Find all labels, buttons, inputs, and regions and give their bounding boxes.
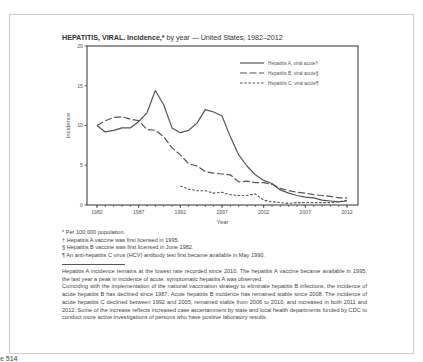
y-tick-label: 20 [77,43,83,49]
summary-paragraph-hep-b-c: Coinciding with the implementation of th… [62,283,367,322]
series-line-hepatitis-b [97,117,347,198]
footnote-per-population: * Per 100,000 population. [62,229,265,237]
summary-divider [62,264,125,265]
legend-label: Hepatitis C, viral acute¶ [268,81,319,86]
x-axis-title: Year [216,219,228,225]
series-line-hepatitis-a [97,91,347,202]
x-tick-label: 2002 [258,209,270,215]
y-tick-label: 0 [80,202,83,208]
footnote-hep-a-vaccine: † Hepatitis A vaccine was first licensed… [62,237,265,245]
page-number-fragment: e 514 [0,355,18,362]
x-tick-label: 1982 [91,209,103,215]
y-axis-title: Incidence [65,112,71,138]
y-tick-label: 15 [77,83,83,89]
x-tick-label: 1992 [175,209,187,215]
legend-label: Hepatitis B, viral acute§ [268,71,319,76]
y-tick-label: 5 [80,162,83,168]
x-tick-label: 2012 [341,209,353,215]
summary-paragraph-hep-a: Hepatitis A incidence remains at the low… [62,268,367,283]
x-tick-label: 2007 [300,209,312,215]
summary-text: Hepatitis A incidence remains at the low… [62,268,367,322]
footnote-hep-b-vaccine: § Hepatitis B vaccine was first licensed… [62,244,265,252]
footnote-hcv-test: ¶ An anti-hepatitis C virus (HCV) antibo… [62,252,265,260]
x-tick-label: 1987 [133,209,145,215]
chart-legend: Hepatitis A, viral acute†Hepatitis B, vi… [240,61,319,86]
legend-label: Hepatitis A, viral acute† [268,61,318,66]
footnotes: * Per 100,000 population. † Hepatitis A … [62,229,265,259]
y-tick-label: 10 [77,122,83,128]
x-tick-label: 1997 [216,209,228,215]
chart-series [97,91,347,204]
